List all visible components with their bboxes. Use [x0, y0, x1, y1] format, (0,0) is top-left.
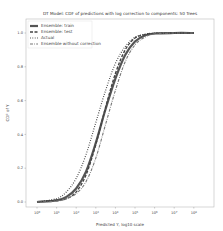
- y-axis-label: CDF of Y: [5, 104, 10, 122]
- y-tick-label: 0.2: [17, 166, 23, 170]
- series-lines: [37, 33, 194, 202]
- y-axis: 0.00.20.40.60.81.0: [17, 31, 26, 204]
- series-line: [37, 33, 194, 202]
- legend-label: Ensemble without correction: [41, 41, 101, 46]
- x-tick-label: 102: [73, 211, 80, 216]
- legend-label: Ensemble: train: [41, 23, 74, 28]
- chart-svg: DT Model: CDF of predictions with log co…: [0, 0, 223, 231]
- y-tick-label: 0.0: [17, 200, 23, 204]
- series-line: [37, 33, 194, 202]
- x-tick-label: 105: [132, 211, 139, 216]
- y-tick-label: 0.6: [17, 99, 23, 103]
- x-tick-label: 107: [171, 211, 178, 216]
- series-line: [37, 33, 194, 202]
- x-tick-label: 103: [93, 211, 100, 216]
- chart-title: DT Model: CDF of predictions with log co…: [43, 11, 197, 16]
- x-tick-label: 104: [112, 211, 119, 216]
- x-tick-label: 108: [191, 211, 198, 216]
- legend-label: Ensemble: test: [41, 29, 73, 34]
- x-tick-label: 106: [151, 211, 158, 216]
- x-axis: 100101102103104105106107108: [34, 207, 197, 215]
- series-line: [37, 33, 194, 202]
- x-tick-label: 100: [34, 211, 41, 216]
- y-tick-label: 1.0: [17, 31, 23, 35]
- legend-label: Actual: [41, 35, 54, 40]
- figure: DT Model: CDF of predictions with log co…: [0, 0, 223, 231]
- x-tick-label: 101: [53, 211, 60, 216]
- x-axis-label: Predicted Y, log10 scale: [96, 222, 144, 227]
- y-tick-label: 0.8: [17, 65, 23, 69]
- y-tick-label: 0.4: [17, 133, 23, 137]
- legend: Ensemble: trainEnsemble: testActualEnsem…: [28, 21, 101, 48]
